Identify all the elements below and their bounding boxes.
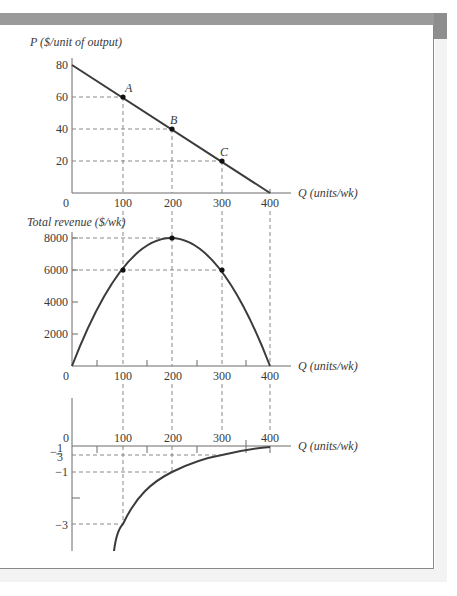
point-b-label: B [170, 113, 178, 127]
elasticity-xtick-100: 100 [114, 431, 132, 445]
revenue-point-200 [169, 235, 174, 240]
elasticity-xtick-0: 0 [63, 431, 69, 445]
demand-ytick-60: 60 [56, 90, 68, 104]
revenue-xtick-0: 0 [63, 369, 69, 383]
revenue-chart: Total revenue ($/wk) 8000 6000 4000 2000… [27, 215, 358, 383]
figure: P ($/unit of output) 80 60 40 20 A B C 0… [0, 0, 457, 596]
point-c-label: C [220, 145, 229, 159]
elasticity-x-axis-label: Q (units/wk) [298, 439, 358, 453]
demand-ytick-80: 80 [56, 58, 68, 72]
revenue-curve [72, 238, 270, 366]
point-c [219, 158, 224, 163]
elasticity-xtick-400: 400 [261, 431, 279, 445]
revenue-xtick-200: 200 [164, 369, 182, 383]
elasticity-xtick-200: 200 [164, 431, 182, 445]
elasticity-ytick-minus3: −3 [55, 518, 68, 532]
point-a [120, 94, 125, 99]
demand-ytick-20: 20 [56, 154, 68, 168]
elasticity-ytick-third-sign: − [50, 445, 57, 459]
demand-xtick-300: 300 [213, 196, 231, 210]
elasticity-xtick-300: 300 [213, 431, 231, 445]
demand-x-axis-label: Q (units/wk) [298, 186, 358, 200]
elasticity-chart: 0 100 200 300 400 Q (units/wk) − 1 3 −1 … [50, 398, 358, 551]
demand-chart: P ($/unit of output) 80 60 40 20 A B C 0… [29, 35, 358, 210]
revenue-point-300 [219, 267, 224, 272]
point-a-label: A [124, 81, 133, 95]
point-b [169, 126, 174, 131]
demand-y-axis-label: P ($/unit of output) [29, 35, 122, 49]
demand-xtick-100: 100 [114, 196, 132, 210]
revenue-point-100 [120, 267, 125, 272]
revenue-y-axis-label: Total revenue ($/wk) [27, 215, 125, 229]
elasticity-ytick-minus1: −1 [55, 465, 68, 479]
revenue-ytick-2000: 2000 [44, 327, 68, 341]
demand-xtick-0: 0 [63, 196, 69, 210]
demand-xtick-400: 400 [261, 196, 279, 210]
revenue-ytick-4000: 4000 [44, 295, 68, 309]
demand-ytick-40: 40 [56, 122, 68, 136]
revenue-x-axis-label: Q (units/wk) [298, 359, 358, 373]
revenue-xtick-400: 400 [261, 369, 279, 383]
revenue-xtick-300: 300 [213, 369, 231, 383]
elasticity-ytick-third-den: 3 [57, 450, 63, 464]
revenue-ytick-6000: 6000 [44, 263, 68, 277]
revenue-ytick-8000: 8000 [44, 231, 68, 245]
elasticity-curve [114, 447, 270, 551]
revenue-xtick-100: 100 [114, 369, 132, 383]
demand-xtick-200: 200 [164, 196, 182, 210]
